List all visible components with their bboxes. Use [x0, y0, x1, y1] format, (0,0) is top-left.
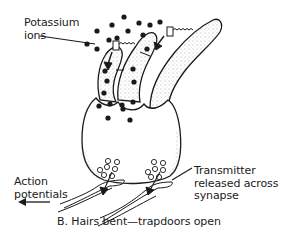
transmitter-label-line1: Transmitter	[194, 165, 278, 178]
figure-caption: B. Hairs bent—trapdoors open	[57, 216, 221, 229]
action-label-line2: potentials	[14, 189, 68, 202]
transmitter-label-line3: synapse	[194, 190, 278, 203]
action-potentials-label: Action potentials	[14, 176, 68, 201]
tall-stereocilium	[150, 19, 222, 110]
potassium-label-line2: ions	[24, 30, 79, 43]
action-label-line1: Action	[14, 176, 68, 189]
potassium-ions-label: Potassium ions	[24, 17, 79, 42]
transmitter-label: Transmitter released across synapse	[194, 165, 278, 203]
potassium-label-line1: Potassium	[24, 17, 79, 30]
